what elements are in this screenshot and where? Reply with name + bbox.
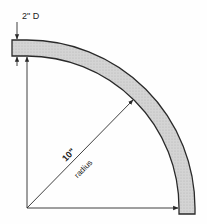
diagonal-radius-arrow bbox=[27, 100, 133, 208]
pipe-bend-diagram: 2" D 10" radius bbox=[0, 0, 207, 224]
radius-word-label: radius bbox=[73, 158, 95, 180]
diagram-canvas: 2" D 10" radius bbox=[0, 0, 207, 224]
diameter-label: 2" D bbox=[22, 11, 40, 21]
pipe-bend-shape bbox=[12, 40, 195, 214]
radius-value-label: 10" bbox=[60, 146, 77, 163]
